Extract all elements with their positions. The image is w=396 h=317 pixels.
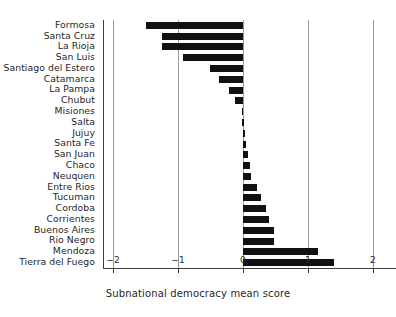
bar (243, 162, 250, 169)
y-axis-label: Chubut (61, 95, 95, 105)
y-axis-label: Salta (71, 117, 95, 127)
bar (146, 22, 243, 29)
bar (229, 87, 243, 94)
y-axis-label: Corrientes (46, 214, 95, 224)
bar (243, 216, 269, 223)
y-axis-label: Cordoba (56, 203, 95, 213)
bar (243, 151, 248, 158)
y-axis-label: Tucuman (53, 192, 95, 202)
x-tick-label: 0 (240, 255, 246, 265)
bar (219, 76, 243, 83)
y-axis-label: Chaco (66, 160, 95, 170)
y-axis-label: La Pampa (49, 84, 95, 94)
bar (210, 65, 243, 72)
bar (243, 184, 257, 191)
x-tick-label: 2 (370, 255, 376, 265)
y-axis-label: San Luis (56, 52, 95, 62)
y-axis-label: La Rioja (58, 41, 95, 51)
bar (243, 130, 245, 137)
tick-mark (373, 268, 374, 273)
x-tick-label: −1 (171, 255, 185, 265)
y-axis-label: Santa Cruz (44, 31, 95, 41)
y-axis-label: Santa Fe (54, 138, 95, 148)
x-tick-label: 1 (305, 255, 311, 265)
y-axis-category-labels: FormosaSanta CruzLa RiojaSan LuisSantiag… (0, 20, 99, 268)
y-axis-label: Jujuy (72, 128, 95, 138)
plot-area (103, 20, 396, 268)
y-axis-label: Catamarca (44, 74, 95, 84)
x-axis-title: Subnational democracy mean score (0, 288, 396, 299)
bar (243, 205, 266, 212)
tick-mark (308, 268, 309, 273)
tick-mark (178, 268, 179, 273)
chart-figure: FormosaSanta CruzLa RiojaSan LuisSantiag… (0, 0, 396, 317)
x-axis-spine (103, 268, 396, 269)
bar (183, 54, 243, 61)
y-axis-label: Buenos Aires (34, 225, 95, 235)
bar (162, 43, 243, 50)
tick-mark (243, 268, 244, 273)
bar (242, 119, 243, 126)
y-axis-label: San Juan (54, 149, 95, 159)
bar (235, 97, 243, 104)
bar (243, 227, 274, 234)
bar (243, 194, 261, 201)
bar (242, 108, 243, 115)
tick-mark (113, 268, 114, 273)
y-axis-label: Formosa (55, 20, 95, 30)
y-axis-label: Mendoza (53, 246, 95, 256)
bar (162, 33, 243, 40)
y-axis-label: Neuquen (53, 171, 95, 181)
y-axis-label: Rio Negro (49, 235, 95, 245)
y-axis-label: Santiago del Estero (4, 63, 95, 73)
y-axis-label: Entre Rios (47, 182, 95, 192)
bar (243, 238, 274, 245)
y-axis-label: Misiones (54, 106, 95, 116)
bar (243, 141, 246, 148)
bar (243, 173, 251, 180)
bar-series (103, 20, 396, 268)
bar (243, 259, 334, 266)
y-axis-label: Tierra del Fuego (19, 257, 95, 267)
x-tick-label: −2 (106, 255, 120, 265)
